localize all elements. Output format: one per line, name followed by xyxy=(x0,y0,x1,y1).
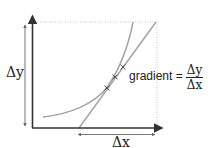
delta-x-label: Δx xyxy=(112,134,130,148)
fraction-numerator: Δy xyxy=(186,64,203,78)
gradient-text: gradient = xyxy=(129,69,183,83)
gradient-formula: gradient = Δy Δx xyxy=(129,64,203,91)
delta-y-label: Δy xyxy=(6,64,24,80)
cross-marker xyxy=(121,65,126,70)
curve xyxy=(43,22,133,117)
fraction-denominator: Δx xyxy=(186,78,203,91)
gradient-fraction: Δy Δx xyxy=(186,64,203,91)
